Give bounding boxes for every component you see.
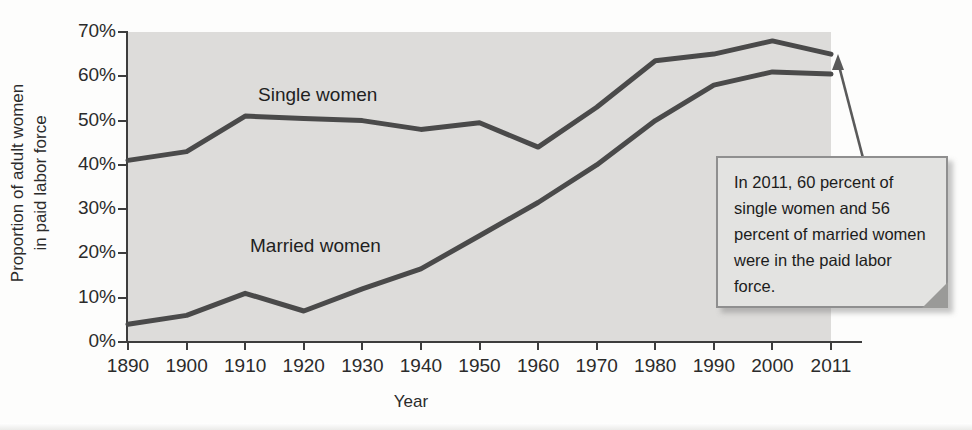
- series-label-married-women: Married women: [250, 235, 381, 257]
- callout-box: In 2011, 60 percent of single women and …: [716, 156, 948, 308]
- x-axis-title: Year: [394, 392, 428, 411]
- x-axis-title-container: Year: [0, 392, 972, 412]
- line-single-women: [128, 41, 831, 160]
- series-label-single-women: Single women: [258, 84, 377, 106]
- page-edge: [0, 423, 972, 430]
- callout-arrow-head: [832, 54, 844, 70]
- chart-figure: Proportion of adult women in paid labor …: [0, 0, 972, 430]
- callout-text: In 2011, 60 percent of single women and …: [734, 170, 936, 299]
